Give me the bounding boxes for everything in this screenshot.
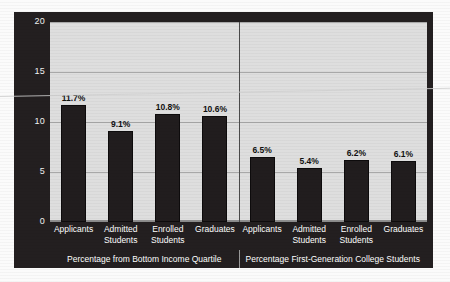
bar-value-label: 10.6% <box>193 105 237 114</box>
bar-chart-figure: 05101520 11.7%9.1%10.8%10.6%6.5%5.4%6.2%… <box>14 12 433 268</box>
bar <box>297 168 322 222</box>
panel-captions: Percentage from Bottom Income QuartilePe… <box>50 252 427 268</box>
plot-area: 11.7%9.1%10.8%10.6%6.5%5.4%6.2%6.1% <box>50 22 427 222</box>
bar-value-label: 10.8% <box>146 103 190 112</box>
category-label: Applicants <box>239 224 286 235</box>
panel-caption: Percentage from Bottom Income Quartile <box>50 252 239 266</box>
bar-value-label: 9.1% <box>99 120 143 129</box>
bar <box>344 160 369 222</box>
bar <box>391 161 416 222</box>
bar-value-label: 5.4% <box>287 157 331 166</box>
bar-value-label: 6.2% <box>334 149 378 158</box>
bar <box>108 131 133 222</box>
y-axis-tick-label: 5 <box>16 167 50 176</box>
category-label: Graduates <box>380 224 427 235</box>
y-axis: 05101520 <box>14 22 50 222</box>
category-label: Applicants <box>50 224 97 235</box>
bar-value-label: 6.5% <box>240 146 284 155</box>
y-axis-tick-label: 20 <box>16 17 50 26</box>
bar <box>61 105 86 222</box>
category-label: Graduates <box>191 224 238 235</box>
category-label: Enrolled Students <box>333 224 380 246</box>
panel-divider <box>239 22 240 222</box>
bar <box>250 157 275 222</box>
panel-caption: Percentage First-Generation College Stud… <box>239 252 428 266</box>
category-label: Admitted Students <box>286 224 333 246</box>
y-axis-tick-label: 10 <box>16 117 50 126</box>
category-label: Admitted Students <box>97 224 144 246</box>
bar-value-label: 11.7% <box>52 94 96 103</box>
y-axis-tick-label: 0 <box>16 217 50 226</box>
category-label: Enrolled Students <box>144 224 191 246</box>
bar-value-label: 6.1% <box>381 150 425 159</box>
bar <box>155 114 180 222</box>
scanned-page: 05101520 11.7%9.1%10.8%10.6%6.5%5.4%6.2%… <box>0 0 450 282</box>
y-axis-tick-label: 15 <box>16 67 50 76</box>
bar <box>202 116 227 222</box>
